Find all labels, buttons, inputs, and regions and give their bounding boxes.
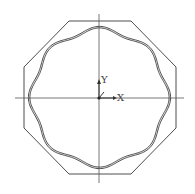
origin-dot-icon (97, 96, 100, 99)
y-axis-label: Y (100, 74, 108, 85)
diagram-canvas: Y X (0, 0, 195, 194)
x-axis-label: X (117, 92, 125, 103)
